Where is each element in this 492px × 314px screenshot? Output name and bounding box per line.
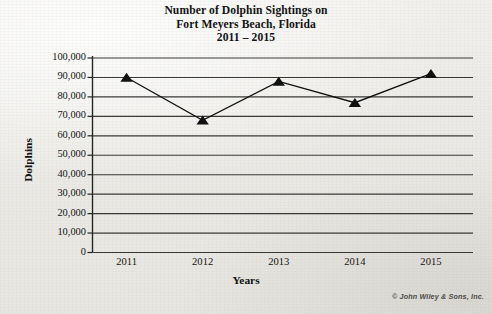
x-axis-title-text: Years [232,274,259,286]
y-axis-ticks [88,58,93,253]
x-axis-tick-label: 2012 [173,256,233,267]
y-axis-title-text: Dolphins [22,138,34,182]
y-axis-tick-label: 10,000 [0,226,86,237]
y-axis-tick-label: 30,000 [0,187,86,198]
line-chart: Number of Dolphin Sightings on Fort Meye… [0,0,492,314]
y-axis-tick-labels: 100,00090,00080,00070,00060,00050,00040,… [0,0,86,314]
y-axis-tick-label: 90,000 [0,70,86,81]
y-axis-tick-label: 20,000 [0,207,86,218]
y-axis-tick-label: 50,000 [0,148,86,159]
x-axis-title: Years [0,274,492,286]
y-axis-tick-label: 80,000 [0,90,86,101]
data-point-marker [349,98,361,107]
data-point-marker [425,69,437,78]
x-axis-tick-label: 2014 [325,256,385,267]
y-axis-tick-label: 40,000 [0,168,86,179]
x-axis-tick-label: 2011 [97,256,157,267]
copyright-notice: © John Wiley & Sons, Inc. [392,292,484,301]
x-axis-tick-label: 2013 [249,256,309,267]
y-axis-tick-label: 0 [0,246,86,257]
y-axis-tick-label: 70,000 [0,109,86,120]
x-axis-tick-label: 2015 [401,256,461,267]
y-axis-title: Dolphins [17,130,39,190]
y-axis-tick-label: 100,000 [0,51,86,62]
y-axis-tick-label: 60,000 [0,129,86,140]
